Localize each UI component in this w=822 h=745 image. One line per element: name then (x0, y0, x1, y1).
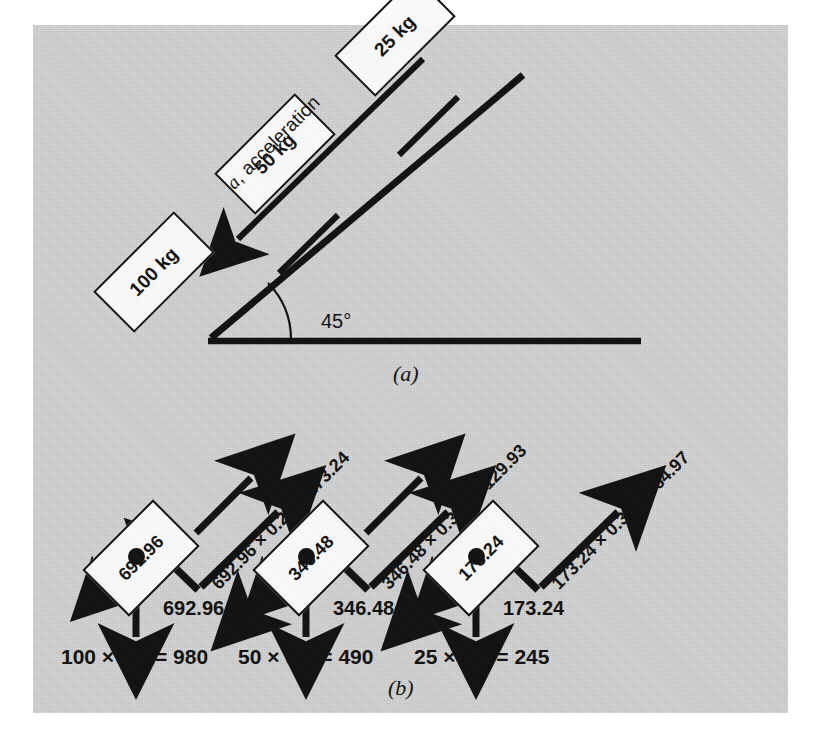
fbd-block-2-center-dot (298, 548, 315, 565)
fbd-1-weight-expression: 100 × 9.8 = 980 (61, 645, 208, 669)
b2-reaction-arrow (366, 478, 421, 533)
figure-page: 100 kg 50 kg 25 kg a, acceleration 45° (… (0, 0, 822, 745)
fbd-block-1-center-dot (128, 548, 145, 565)
rod-100-50 (279, 215, 338, 273)
fbd-2-tension-label: T (248, 609, 261, 635)
fbd-2-reaction-label: R (432, 459, 446, 485)
fbd-block-3-center-dot (468, 548, 485, 565)
incline-block-25kg-label: 25 kg (370, 11, 420, 61)
fbd-2-weight-expression: 50 × 9.8 = 490 (238, 645, 373, 669)
incline-block-100kg-label: 100 kg (125, 243, 182, 300)
fbd-3-reaction-label: R (418, 609, 432, 635)
panel-a-caption: (a) (393, 361, 419, 387)
b1-tension-arrow (196, 478, 251, 533)
fbd-3-normal-label: 173.24 (503, 597, 564, 620)
fbd-1-normal-label: 692.96 (163, 597, 224, 620)
incline-angle-label: 45° (321, 310, 351, 333)
figure-panel: 100 kg 50 kg 25 kg a, acceleration 45° (… (33, 25, 788, 713)
panel-b-caption: (b) (388, 675, 414, 701)
rod-50-25 (399, 97, 458, 155)
fbd-1-tension-label: T (262, 459, 275, 485)
fbd-2-normal-label: 346.48 (333, 597, 394, 620)
fbd-3-weight-expression: 25 × 9.8 = 245 (414, 645, 549, 669)
